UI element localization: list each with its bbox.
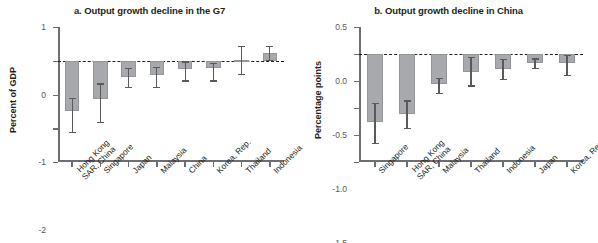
chart-panel-b: b. Output growth decline in China Percen… — [299, 0, 598, 243]
panel-a-y-tick: -3 — [53, 162, 58, 163]
panel-b-y-axis — [359, 27, 361, 162]
error-bar — [534, 58, 535, 68]
error-bar-cap — [125, 87, 132, 88]
panel-b-x-tick — [502, 162, 503, 167]
error-bar — [128, 68, 129, 87]
panel-a-y-tick-label: 1 — [41, 22, 46, 32]
error-bar-cap — [182, 61, 189, 62]
x-category-line: Korea, Rep. — [569, 138, 598, 176]
error-bar-cap — [436, 93, 443, 94]
error-bar-cap — [404, 128, 411, 129]
error-bar-cap — [210, 80, 217, 81]
error-bar — [269, 46, 270, 61]
panel-a-y-axis — [58, 27, 60, 162]
panel-a-x-tick — [184, 162, 185, 167]
error-bar — [566, 55, 567, 75]
panel-b-x-tick — [406, 162, 407, 167]
error-bar — [438, 78, 439, 93]
error-bar — [100, 83, 101, 122]
error-bar — [213, 63, 214, 81]
error-bar-cap — [532, 58, 539, 59]
error-bar — [406, 100, 407, 128]
panel-a-x-tick — [100, 162, 101, 167]
error-bar-cap — [266, 46, 273, 47]
error-bar-cap — [404, 100, 411, 101]
x-category-label: Singapore — [377, 142, 410, 175]
x-category-line: Singapore — [377, 142, 410, 175]
panel-a-x-tick — [156, 162, 157, 167]
panel-a-x-tick — [241, 162, 242, 167]
error-bar-cap — [97, 122, 104, 123]
panel-a-y-tick-label: 0 — [41, 90, 46, 100]
panel-b-y-tick-label: 0.5 — [335, 22, 347, 32]
error-bar — [156, 67, 157, 87]
panel-b-x-tick — [374, 162, 375, 167]
error-bar-cap — [564, 75, 571, 76]
error-bar-cap — [266, 60, 273, 61]
error-bar-cap — [372, 143, 379, 144]
panel-b-y-axis-label: Percentage points — [313, 57, 323, 143]
error-bar — [241, 46, 242, 75]
panel-a-title: a. Output growth decline in the G7 — [0, 5, 299, 16]
panel-a-y-tick-label: -1 — [38, 157, 46, 167]
x-category-label: Japan — [131, 153, 154, 176]
figure-two-panel-bar-chart: a. Output growth decline in the G7 Perce… — [0, 0, 598, 243]
panel-b-x-tick — [534, 162, 535, 167]
panel-b-x-tick — [566, 162, 567, 167]
error-bar-cap — [97, 83, 104, 84]
error-bar-cap — [468, 85, 475, 86]
panel-b-title: b. Output growth decline in China — [299, 5, 598, 16]
error-bar-cap — [182, 80, 189, 81]
panel-b-y-tick: -0.5 — [354, 81, 359, 82]
error-bar — [470, 57, 471, 85]
panel-a-y-tick: -2 — [53, 128, 58, 129]
panel-a-x-tick — [71, 162, 72, 167]
panel-a-x-tick — [128, 162, 129, 167]
x-category-label: Japan — [537, 153, 560, 176]
error-bar — [502, 59, 503, 79]
panel-b-y-tick: -2.0 — [354, 162, 359, 163]
panel-a-zero-reference-line — [58, 61, 284, 62]
panel-a-y-tick: -1 — [53, 95, 58, 96]
error-bar-cap — [500, 59, 507, 60]
error-bar-cap — [238, 46, 245, 47]
error-bar-cap — [238, 74, 245, 75]
panel-a-x-tick — [269, 162, 270, 167]
panel-a-x-tick — [213, 162, 214, 167]
error-bar-cap — [153, 87, 160, 88]
x-category-label: China — [187, 154, 209, 176]
error-bar-cap — [500, 79, 507, 80]
panel-b-y-tick-label: -0.5 — [332, 130, 347, 140]
x-category-line: Japan — [131, 153, 154, 176]
error-bar — [72, 98, 73, 132]
error-bar-cap — [468, 57, 475, 58]
panel-b-x-tick — [470, 162, 471, 167]
error-bar-cap — [69, 98, 76, 99]
error-bar — [374, 103, 375, 143]
panel-b-y-tick-label: -1.5 — [332, 238, 347, 243]
panel-b-y-tick-label: -1.0 — [332, 184, 347, 194]
x-category-label: Korea, Rep. — [569, 138, 598, 176]
panel-b-y-tick: -1.0 — [354, 108, 359, 109]
error-bar-cap — [436, 78, 443, 79]
x-category-line: Japan — [537, 153, 560, 176]
x-category-line: China — [187, 154, 209, 176]
chart-panel-a: a. Output growth decline in the G7 Perce… — [0, 0, 299, 243]
error-bar-cap — [372, 103, 379, 104]
error-bar — [185, 61, 186, 80]
panel-b-x-tick — [438, 162, 439, 167]
panel-b-plot-area: 0.50.0-0.5-1.0-1.5-2.0SingaporeHong Kong… — [359, 27, 583, 162]
panel-a-y-axis-label: Percent of GDP — [8, 65, 18, 135]
error-bar-cap — [125, 68, 132, 69]
error-bar-cap — [210, 63, 217, 64]
panel-a-y-tick-label: -2 — [38, 225, 46, 235]
panel-a-y-tick: 1 — [53, 27, 58, 28]
panel-a-plot-area: 10-1-2-3Hong KongSAR, ChinaSingaporeJapa… — [58, 27, 284, 162]
error-bar-cap — [153, 67, 160, 68]
panel-b-y-tick: 0.5 — [354, 27, 359, 28]
error-bar-cap — [532, 68, 539, 69]
error-bar-cap — [69, 132, 76, 133]
error-bar-cap — [564, 55, 571, 56]
panel-b-y-tick-label: 0.0 — [335, 76, 347, 86]
panel-b-y-tick: -1.5 — [354, 135, 359, 136]
